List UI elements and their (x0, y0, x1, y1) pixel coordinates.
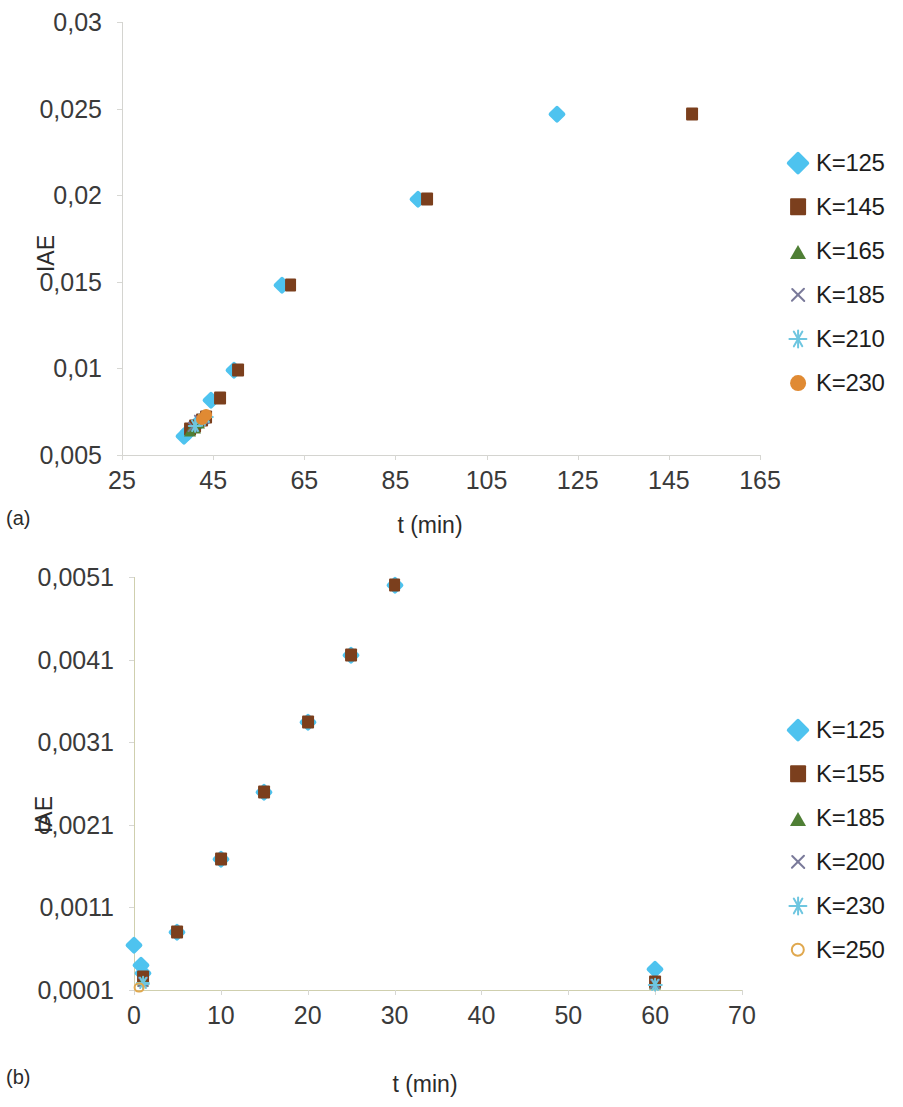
x-tick-mark (395, 455, 396, 460)
diamond-marker-icon (786, 151, 810, 175)
legend-label: K=230 (816, 371, 885, 395)
legend-label: K=185 (816, 283, 885, 307)
y-tick-label: 0,0041 (0, 647, 124, 672)
x-tick-label: 85 (382, 468, 410, 493)
x-tick-label: 165 (739, 468, 781, 493)
legend-marker (786, 371, 810, 395)
x-tick-mark (487, 455, 488, 460)
x-tick-label: 30 (381, 1003, 409, 1028)
legend-marker (786, 938, 810, 962)
cross-marker-icon (786, 850, 810, 874)
panel-caption-a: (a) (6, 507, 30, 530)
legend-item: K=145 (786, 194, 885, 220)
x-tick-mark (304, 455, 305, 460)
legend-marker (786, 239, 810, 263)
legend-marker (786, 762, 810, 786)
x-tick-mark (221, 990, 222, 995)
legend-marker (786, 850, 810, 874)
y-tick-label: 0,0031 (0, 730, 124, 755)
figure-two-panel-scatter: 0,0050,010,0150,020,0250,03 254565851051… (0, 0, 903, 1107)
x-tick-mark (308, 990, 309, 995)
square-marker-icon (786, 762, 810, 786)
x-tick-label: 105 (466, 468, 508, 493)
x-tick-mark (213, 455, 214, 460)
legend-item: K=200 (786, 849, 885, 875)
open-circle-marker-icon (786, 938, 810, 962)
y-tick-mark (129, 577, 134, 578)
x-tick-label: 50 (554, 1003, 582, 1028)
y-tick-label: 0,0051 (0, 565, 124, 590)
legend-label: K=155 (816, 762, 885, 786)
x-tick-label: 145 (648, 468, 690, 493)
x-tick-mark (122, 455, 123, 460)
star-marker-icon (786, 894, 810, 918)
x-tick-label: 40 (468, 1003, 496, 1028)
plot-area-a (122, 22, 760, 455)
y-tick-label: 0,0011 (0, 895, 124, 920)
legend-item: K=250 (786, 937, 885, 963)
legend-item: K=210 (786, 326, 885, 352)
x-tick-label: 125 (557, 468, 599, 493)
y-tick-mark (129, 660, 134, 661)
y-tick-mark (117, 22, 122, 23)
diamond-marker-icon (786, 718, 810, 742)
legend-item: K=230 (786, 370, 885, 396)
y-axis-line-a (122, 22, 123, 455)
y-tick-mark (129, 825, 134, 826)
y-tick-mark (129, 907, 134, 908)
x-tick-mark (655, 990, 656, 995)
y-tick-mark (117, 195, 122, 196)
x-axis-title-a: t (min) (397, 512, 462, 539)
y-tick-label: 0,005 (0, 443, 112, 468)
legend-label: K=165 (816, 239, 885, 263)
panel-b: 0,00010,00110,00210,00310,00410,0051 010… (0, 553, 903, 1107)
x-tick-mark (669, 455, 670, 460)
y-axis-title-a: IAE (33, 235, 60, 272)
legend-label: K=185 (816, 806, 885, 830)
star-marker-icon (786, 327, 810, 351)
legend-marker (786, 806, 810, 830)
x-tick-label: 0 (127, 1003, 141, 1028)
legend-item: K=155 (786, 761, 885, 787)
y-tick-mark (117, 368, 122, 369)
legend-marker (786, 195, 810, 219)
y-tick-mark (129, 742, 134, 743)
x-tick-mark (395, 990, 396, 995)
x-tick-mark (134, 990, 135, 995)
triangle-marker-icon (786, 239, 810, 263)
legend-marker (786, 894, 810, 918)
y-tick-label: 0,03 (0, 10, 112, 35)
y-tick-label: 0,02 (0, 183, 112, 208)
cross-marker-icon (786, 283, 810, 307)
legend-item: K=230 (786, 893, 885, 919)
triangle-marker-icon (786, 806, 810, 830)
x-tick-mark (578, 455, 579, 460)
x-axis-line-a (122, 455, 760, 456)
y-axis-line-b (134, 577, 135, 990)
x-tick-mark (481, 990, 482, 995)
legend-marker (786, 151, 810, 175)
y-tick-label: 0,0001 (0, 978, 124, 1003)
panel-a: 0,0050,010,0150,020,0250,03 254565851051… (0, 0, 903, 553)
panel-caption-b: (b) (6, 1066, 30, 1089)
legend-item: K=165 (786, 238, 885, 264)
y-tick-mark (117, 109, 122, 110)
x-tick-label: 20 (294, 1003, 322, 1028)
legend-label: K=125 (816, 718, 885, 742)
y-axis-title-b: IAE (31, 796, 58, 833)
legend-item: K=185 (786, 805, 885, 831)
y-tick-label: 0,01 (0, 356, 112, 381)
x-tick-label: 65 (290, 468, 318, 493)
x-axis-title-b: t (min) (392, 1071, 457, 1098)
y-tick-label: 0,025 (0, 96, 112, 121)
x-tick-label: 25 (108, 468, 136, 493)
legend-item: K=185 (786, 282, 885, 308)
x-tick-label: 70 (728, 1003, 756, 1028)
x-tick-label: 60 (641, 1003, 669, 1028)
x-tick-mark (760, 455, 761, 460)
x-tick-label: 10 (207, 1003, 235, 1028)
legend-marker (786, 718, 810, 742)
legend-marker (786, 327, 810, 351)
plot-area-b (134, 577, 742, 990)
x-axis-line-b (134, 990, 742, 991)
